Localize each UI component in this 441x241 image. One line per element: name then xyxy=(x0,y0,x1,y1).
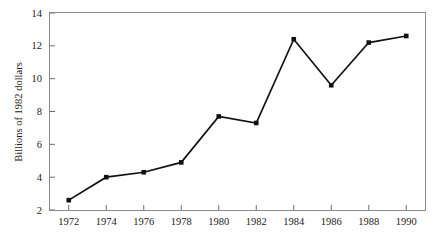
data-point-marker xyxy=(216,114,221,119)
data-point-marker xyxy=(366,40,371,45)
data-point-marker xyxy=(179,160,184,165)
data-point-marker xyxy=(254,121,259,126)
data-point-marker xyxy=(66,198,71,203)
x-tick-label: 1974 xyxy=(96,216,118,227)
y-tick-label: 14 xyxy=(32,8,43,19)
data-point-marker xyxy=(329,83,334,88)
data-series-line xyxy=(69,36,407,200)
x-tick-label: 1990 xyxy=(396,216,417,227)
data-point-marker xyxy=(104,175,109,180)
chart-page: Billions of 1982 dollars 2468101214 1972… xyxy=(0,0,441,241)
y-tick-label: 8 xyxy=(37,106,42,117)
y-tick-label: 10 xyxy=(32,73,43,84)
line-chart-figure: Billions of 1982 dollars 2468101214 1972… xyxy=(0,0,441,241)
x-tick-label-group: 1972197419761978198019821984198619881990 xyxy=(58,216,417,227)
x-tick-label: 1972 xyxy=(58,216,79,227)
y-axis-title: Billions of 1982 dollars xyxy=(13,62,24,161)
x-tick-label: 1976 xyxy=(133,216,154,227)
chart-svg: Billions of 1982 dollars 2468101214 1972… xyxy=(0,0,441,241)
x-tick-label: 1984 xyxy=(283,216,305,227)
data-series-markers xyxy=(66,34,408,203)
data-point-marker xyxy=(404,34,409,39)
x-tick-label: 1982 xyxy=(246,216,267,227)
x-tick-label: 1986 xyxy=(321,216,342,227)
y-tick-label-group: 2468101214 xyxy=(32,8,43,216)
x-tick-mark-group xyxy=(69,205,407,210)
data-point-marker xyxy=(291,37,296,42)
data-point-marker xyxy=(141,170,146,175)
y-tick-label: 6 xyxy=(37,139,42,150)
x-tick-label: 1978 xyxy=(171,216,192,227)
y-axis-title-label: Billions of 1982 dollars xyxy=(13,62,24,161)
y-tick-label: 12 xyxy=(32,40,43,51)
y-tick-label: 4 xyxy=(37,172,43,183)
x-tick-label: 1988 xyxy=(358,216,379,227)
x-tick-label: 1980 xyxy=(208,216,229,227)
y-tick-mark-group xyxy=(50,13,55,210)
y-tick-label: 2 xyxy=(37,205,42,216)
